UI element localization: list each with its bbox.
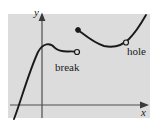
hole-annotation-label: hole xyxy=(127,46,146,57)
break-annotation-label: break xyxy=(55,62,79,73)
x-axis xyxy=(10,101,149,108)
break-filled-dot-marker xyxy=(76,28,81,33)
break-open-circle-marker xyxy=(75,50,80,55)
y-axis xyxy=(39,13,46,119)
y-axis-label: y xyxy=(34,7,39,18)
discontinuity-figure: y x break hole xyxy=(0,0,158,127)
y-axis-arrowhead xyxy=(39,13,46,22)
x-axis-label: x xyxy=(141,107,146,118)
curve-branch-1 xyxy=(14,44,77,119)
curve-branch-2 xyxy=(78,15,146,47)
